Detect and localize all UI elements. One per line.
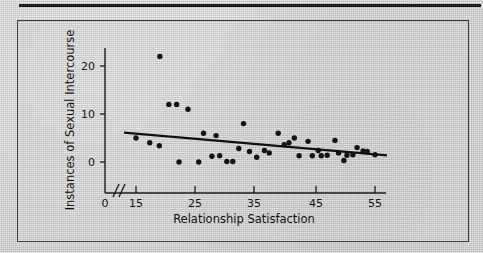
x-axis-title: Relationship Satisfaction [173, 212, 315, 226]
scatter-plot: 20 10 0 0 15 25 35 45 55 Relationship Sa… [0, 0, 483, 253]
data-point [224, 159, 229, 164]
data-point [157, 54, 162, 59]
data-point [276, 131, 281, 136]
data-point [292, 135, 297, 140]
data-point [344, 153, 349, 158]
data-point [305, 139, 310, 144]
x-tick-label-35: 35 [247, 197, 261, 210]
data-point [196, 159, 201, 164]
data-point [201, 131, 206, 136]
y-tick-label-20: 20 [81, 60, 95, 73]
data-point [157, 143, 162, 148]
data-point [286, 140, 291, 145]
y-tick-label-0: 0 [88, 156, 95, 169]
x-axis-ticks [136, 186, 375, 193]
data-point [254, 155, 259, 160]
data-point [236, 146, 241, 151]
x-tick-label-25: 25 [188, 197, 202, 210]
x-tick-label-0: 0 [102, 197, 109, 210]
x-axis-break-icon [113, 184, 125, 197]
x-tick-label-15: 15 [129, 197, 143, 210]
data-point [176, 159, 181, 164]
x-tick-label-45: 45 [309, 197, 323, 210]
data-point [247, 149, 252, 154]
data-point [166, 102, 171, 107]
data-point [341, 158, 346, 163]
data-point [133, 135, 138, 140]
figure-root: 20 10 0 0 15 25 35 45 55 Relationship Sa… [0, 0, 483, 253]
data-point [241, 121, 246, 126]
data-point [354, 145, 359, 150]
data-point [296, 153, 301, 158]
data-point [230, 159, 235, 164]
data-point [310, 153, 315, 158]
y-axis-title: Instances of Sexual Intercourse [63, 30, 77, 211]
y-axis-ticks [100, 66, 105, 162]
data-point [185, 107, 190, 112]
data-point [174, 102, 179, 107]
data-point [217, 153, 222, 158]
data-point [319, 153, 324, 158]
regression-trendline [124, 133, 387, 156]
data-point [209, 154, 214, 159]
data-point [325, 153, 330, 158]
data-point-layer [133, 54, 377, 165]
data-point [332, 138, 337, 143]
data-point [262, 148, 267, 153]
data-point [267, 150, 272, 155]
y-tick-label-10: 10 [81, 108, 95, 121]
data-point [213, 133, 218, 138]
x-tick-label-55: 55 [368, 197, 382, 210]
data-point [147, 140, 152, 145]
